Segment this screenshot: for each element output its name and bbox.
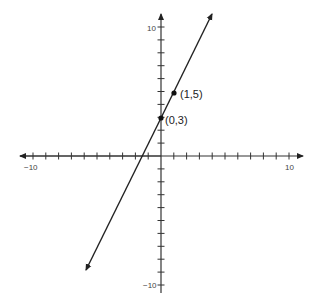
line-series-lower <box>86 118 161 270</box>
point-0-3 <box>158 115 163 120</box>
x-max-label: 10 <box>285 163 294 172</box>
y-min-label: −10 <box>143 281 157 290</box>
line-series <box>161 14 212 118</box>
x-min-label: −10 <box>24 163 38 172</box>
point-0-3-label: (0,3) <box>165 114 188 126</box>
point-1-5-label: (1,5) <box>180 88 203 100</box>
y-max-label: 10 <box>147 24 156 33</box>
point-1-5 <box>171 90 176 95</box>
coordinate-plane: −10 10 10 −10 (0,3) (1,5) <box>0 0 316 305</box>
